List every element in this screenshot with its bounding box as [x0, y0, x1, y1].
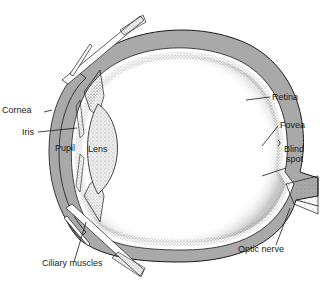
label-ciliary-muscles: Ciliary muscles [42, 258, 103, 268]
eye-diagram-canvas: Cornea Iris Pupil Lens Ciliary muscles R… [0, 0, 320, 292]
label-blind-spot-line2: spot [286, 154, 304, 164]
label-iris: Iris [22, 127, 34, 137]
label-optic-nerve: Optic nerve [238, 244, 284, 254]
label-cornea: Cornea [2, 105, 32, 115]
label-blind-spot-line1: Blind [284, 144, 304, 154]
label-lens: Lens [88, 144, 108, 154]
label-fovea: Fovea [280, 120, 305, 130]
eye-diagram: Cornea Iris Pupil Lens Ciliary muscles R… [0, 0, 320, 292]
label-retina: Retina [272, 92, 298, 102]
label-pupil: Pupil [55, 143, 75, 153]
